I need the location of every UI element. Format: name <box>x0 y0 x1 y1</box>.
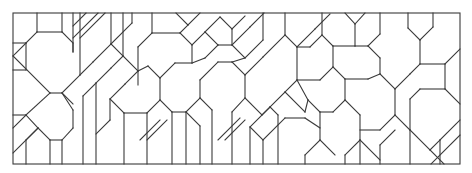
tiling-line <box>310 35 322 47</box>
tiling-line <box>83 83 96 96</box>
tiling-line <box>285 35 297 47</box>
tiling-line <box>186 98 200 112</box>
tiling-line <box>73 13 98 38</box>
tiling-line <box>270 107 278 115</box>
tiling-line <box>13 56 50 93</box>
tiling-line <box>148 66 160 78</box>
tiling-line <box>308 100 320 112</box>
tiling-line <box>111 23 132 44</box>
tiling-line <box>180 25 188 33</box>
tiling-line <box>205 45 218 58</box>
tiling-line <box>320 140 335 155</box>
tiling-line <box>320 67 333 80</box>
tiling-line <box>232 27 250 45</box>
tiling-line <box>200 62 218 80</box>
tiling-line <box>250 127 263 140</box>
tiling-line <box>305 118 320 128</box>
tiling-line <box>62 128 73 140</box>
tiling-line <box>440 120 460 140</box>
tiling-line <box>180 33 192 45</box>
tiling-line <box>410 130 430 150</box>
tiling-line <box>232 58 245 62</box>
tiling-line <box>80 62 93 75</box>
tiling-line <box>445 89 460 104</box>
tiling-line <box>380 115 395 130</box>
tiling-line <box>176 13 188 25</box>
tiling-line <box>380 130 395 145</box>
tiling-line <box>38 128 50 140</box>
tiling-line <box>123 56 138 71</box>
tiling-line <box>430 140 440 150</box>
tiling-line <box>232 98 245 112</box>
tiling-line <box>368 34 380 46</box>
tiling-line <box>220 17 232 29</box>
tiling-line <box>285 92 305 112</box>
tiling-line <box>26 93 50 115</box>
tiling-line <box>200 98 212 110</box>
background <box>0 0 472 173</box>
tiling-line <box>410 64 420 74</box>
tiling-line <box>96 68 111 83</box>
tiling-line <box>445 49 460 64</box>
tiling-line <box>62 32 73 43</box>
tiling-line <box>138 66 148 71</box>
tiling-line <box>192 58 205 63</box>
tiling-line <box>333 100 345 112</box>
tiling-line <box>26 115 38 128</box>
geometric-tiling-diagram <box>0 0 472 173</box>
tiling-line <box>285 80 297 92</box>
tiling-line <box>160 63 175 78</box>
tiling-line <box>111 56 123 68</box>
tiling-line <box>205 32 218 45</box>
tiling-line <box>111 44 123 56</box>
tiling-line <box>431 135 460 164</box>
tiling-line <box>430 150 444 164</box>
tiling-line <box>345 140 360 155</box>
tiling-line <box>345 100 360 115</box>
tiling-line <box>192 32 205 45</box>
tiling-lines <box>13 13 460 164</box>
tiling-line <box>245 98 262 115</box>
tiling-line <box>368 74 380 79</box>
tiling-line <box>270 92 285 107</box>
tiling-line <box>333 67 345 79</box>
tiling-line <box>263 35 285 57</box>
tiling-line <box>13 115 26 128</box>
tiling-line <box>138 33 152 47</box>
tiling-line <box>245 57 263 75</box>
tiling-line <box>26 32 37 43</box>
tiling-line <box>110 99 124 113</box>
tiling-line <box>305 100 308 112</box>
tiling-line <box>297 80 308 100</box>
tiling-line <box>410 89 420 99</box>
tiling-line <box>360 140 380 160</box>
tiling-line <box>368 46 380 58</box>
tiling-line <box>110 84 125 99</box>
tiling-line <box>26 128 38 140</box>
tiling-line <box>263 118 285 140</box>
tiling-line <box>125 71 138 84</box>
tiling-line <box>395 115 410 130</box>
tiling-line <box>245 40 263 58</box>
tiling-line <box>96 120 110 134</box>
tiling-line <box>355 13 365 24</box>
tiling-line <box>250 13 264 27</box>
tiling-line <box>262 107 270 115</box>
tiling-line <box>186 112 200 126</box>
tiling-line <box>395 74 410 89</box>
tiling-line <box>420 27 433 40</box>
tiling-line <box>80 13 105 38</box>
tiling-line <box>205 17 220 32</box>
tiling-line <box>93 44 111 62</box>
tiling-line <box>345 13 355 24</box>
tiling-line <box>13 43 26 56</box>
tiling-line <box>160 100 172 112</box>
tiling-line <box>380 74 395 89</box>
tiling-line <box>62 93 73 110</box>
tiling-line <box>232 62 245 75</box>
tiling-line <box>232 45 245 58</box>
tiling-line <box>188 13 200 25</box>
tiling-line <box>232 16 245 29</box>
tiling-line <box>322 35 333 46</box>
tiling-line <box>62 75 80 93</box>
